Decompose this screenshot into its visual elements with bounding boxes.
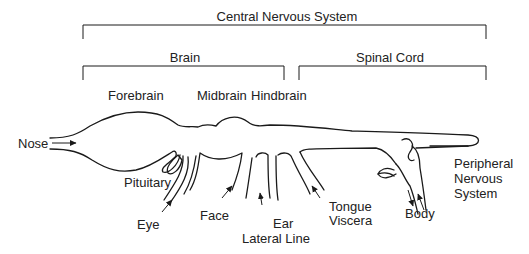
nose-label: Nose	[18, 137, 48, 151]
forebrain-label: Forebrain	[108, 89, 164, 103]
pns-label-line1: Peripheral	[454, 157, 513, 171]
brain-label: Brain	[160, 51, 210, 65]
pns-label-line3: System	[454, 187, 497, 201]
ear-arrow	[260, 193, 262, 205]
tongue-label: Tongue	[329, 200, 372, 214]
hindbrain-label: Hindbrain	[251, 89, 307, 103]
spinal-cord-label: Spinal Cord	[350, 51, 430, 65]
neural-tube-outline	[50, 112, 479, 214]
nervous-system-diagram	[0, 0, 529, 254]
eye-label: Eye	[137, 218, 159, 232]
pituitary-label: Pituitary	[124, 176, 171, 190]
ear-label: Ear	[273, 217, 293, 231]
lateral-line-label: Lateral Line	[242, 232, 310, 246]
viscera-label: Viscera	[329, 214, 372, 228]
spinal-cord-bracket	[299, 66, 486, 80]
face-label: Face	[200, 209, 229, 223]
midbrain-label: Midbrain	[197, 89, 247, 103]
face-arrow	[222, 186, 232, 198]
brain-bracket	[83, 66, 284, 80]
body-label: Body	[405, 207, 435, 221]
cns-label: Central Nervous System	[212, 10, 362, 24]
tongue-arrow	[312, 186, 320, 198]
eye-arrow	[162, 200, 172, 212]
cns-bracket	[83, 25, 486, 39]
pns-label-line2: Nervous	[454, 172, 502, 186]
